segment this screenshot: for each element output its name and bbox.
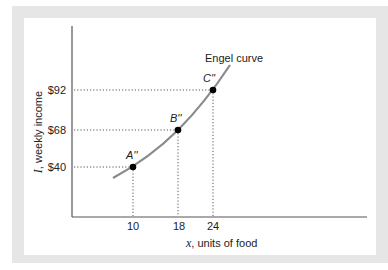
point-b-label: B'' [170,112,182,124]
x-tick-24: 24 [207,220,219,232]
point-a-label: A'' [125,149,138,161]
y-tick-92: $92 [48,84,66,96]
curve-label: Engel curve [205,52,263,64]
y-axis-label: I, weekly income [31,91,45,174]
point-b [175,127,182,134]
y-tick-40: $40 [48,161,66,173]
x-tick-18: 18 [173,220,185,232]
x-tick-10: 10 [127,220,139,232]
point-c-label: C'' [203,72,216,84]
x-axis-text: , units of food [191,237,257,249]
y-tick-68: $68 [48,124,66,136]
x-axis-label: x, units of food [185,236,257,250]
engel-curve-chart: A'' B'' C'' Engel curve $92 $68 $40 10 1… [0,0,388,270]
point-c [210,87,217,94]
guide-lines [74,90,213,216]
y-axis-text: , weekly income [32,91,44,169]
point-a [130,164,137,171]
